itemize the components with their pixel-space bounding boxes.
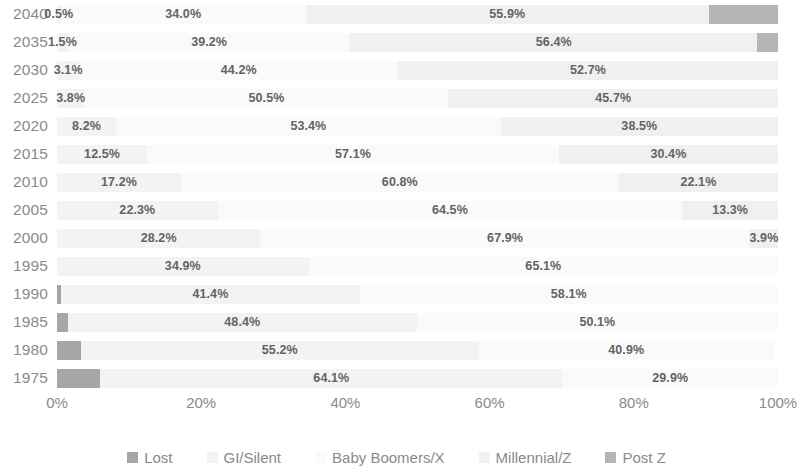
bar-segment: 28.2% [57, 229, 260, 248]
stacked-bar: 28.2%67.9%3.9% [57, 224, 778, 252]
chart-row: 200522.3%64.5%13.3% [0, 196, 793, 224]
x-axis-tick-label: 40% [330, 394, 360, 411]
stacked-bar: 41.4%58.1% [57, 280, 778, 308]
chart-row: 20208.2%53.4%38.5% [0, 112, 793, 140]
data-label: 3.1% [54, 63, 83, 77]
bar-segment: 38.5% [501, 117, 778, 136]
bar-segment [57, 369, 100, 388]
data-label: 13.3% [712, 203, 748, 217]
bar-segment: 8.2% [57, 117, 116, 136]
bar-segment: 3.8% [57, 89, 84, 108]
legend-item[interactable]: GI/Silent [207, 449, 282, 466]
bar-segment: 3.9% [750, 229, 778, 248]
legend-swatch-icon [479, 452, 490, 463]
y-axis-tick-label: 2030 [0, 56, 48, 84]
bar-segment: 53.4% [116, 117, 501, 136]
bar-segment: 67.9% [260, 229, 750, 248]
legend-label: Millennial/Z [496, 449, 572, 466]
chart-row: 20400.5%34.0%55.9% [0, 0, 793, 28]
bar-segment [57, 341, 81, 360]
bar-segment: 13.3% [682, 201, 778, 220]
x-axis-tick-label: 100% [759, 394, 797, 411]
stacked-bar: 1.5%39.2%56.4% [57, 28, 778, 56]
legend-swatch-icon [127, 452, 138, 463]
data-label: 41.4% [192, 287, 228, 301]
x-axis-tick-label: 60% [475, 394, 505, 411]
legend-item[interactable]: Post Z [605, 449, 665, 466]
data-label: 28.2% [141, 231, 177, 245]
y-axis-tick-label: 1975 [0, 364, 48, 392]
x-axis-tick-label: 0% [46, 394, 68, 411]
y-axis-tick-label: 1990 [0, 280, 48, 308]
y-axis-tick-label: 2025 [0, 84, 48, 112]
bar-segment: 39.2% [68, 33, 351, 52]
bar-segment: 45.7% [448, 89, 777, 108]
data-label: 56.4% [536, 35, 572, 49]
data-label: 1.5% [48, 35, 77, 49]
data-label: 39.2% [191, 35, 227, 49]
bar-segment: 58.1% [360, 285, 778, 304]
bar-segment: 30.4% [559, 145, 778, 164]
legend-item[interactable]: Baby Boomers/X [315, 449, 445, 466]
data-label: 34.9% [165, 259, 201, 273]
bar-segment: 64.5% [218, 201, 683, 220]
data-label: 60.8% [382, 175, 418, 189]
chart-row: 20351.5%39.2%56.4% [0, 28, 793, 56]
bar-segment: 50.1% [417, 313, 778, 332]
bar-segment: 48.4% [68, 313, 417, 332]
bar-segment: 1.5% [57, 33, 68, 52]
data-label: 50.1% [579, 315, 615, 329]
bar-segment: 40.9% [479, 341, 774, 360]
legend-item[interactable]: Millennial/Z [479, 449, 572, 466]
y-axis-tick-label: 2010 [0, 168, 48, 196]
data-label: 8.2% [72, 119, 101, 133]
data-label: 40.9% [608, 343, 644, 357]
data-label: 48.4% [224, 315, 260, 329]
data-label: 45.7% [595, 91, 631, 105]
stacked-bar: 12.5%57.1%30.4% [57, 140, 778, 168]
y-axis-tick-label: 1995 [0, 252, 48, 280]
chart-row: 201017.2%60.8%22.1% [0, 168, 793, 196]
bar-segment: 17.2% [57, 173, 181, 192]
data-label: 30.4% [650, 147, 686, 161]
data-label: 34.0% [165, 7, 201, 21]
bar-segment: 22.3% [57, 201, 218, 220]
legend-swatch-icon [207, 452, 218, 463]
y-axis-tick-label: 2040 [0, 0, 48, 28]
stacked-bar: 48.4%50.1% [57, 308, 778, 336]
chart-row: 20303.1%44.2%52.7% [0, 56, 793, 84]
chart-row: 200028.2%67.9%3.9% [0, 224, 793, 252]
data-label: 12.5% [84, 147, 120, 161]
data-label: 53.4% [290, 119, 326, 133]
bar-segment: 34.0% [61, 5, 306, 24]
chart-row: 197564.1%29.9% [0, 364, 793, 392]
data-label: 44.2% [221, 63, 257, 77]
stacked-bar: 55.2%40.9% [57, 336, 778, 364]
data-label: 22.3% [119, 203, 155, 217]
bar-segment: 3.1% [57, 61, 79, 80]
data-label: 58.1% [551, 287, 587, 301]
stacked-bar: 3.1%44.2%52.7% [57, 56, 778, 84]
bar-segment: 41.4% [61, 285, 359, 304]
data-label: 55.9% [489, 7, 525, 21]
y-axis-tick-label: 2015 [0, 140, 48, 168]
y-axis-tick-label: 2020 [0, 112, 48, 140]
bar-segment [757, 33, 778, 52]
legend-item[interactable]: Lost [127, 449, 172, 466]
chart-row: 201512.5%57.1%30.4% [0, 140, 793, 168]
y-axis-tick-label: 2005 [0, 196, 48, 224]
stacked-bar: 8.2%53.4%38.5% [57, 112, 778, 140]
chart-row: 20253.8%50.5%45.7% [0, 84, 793, 112]
data-label: 17.2% [101, 175, 137, 189]
chart-row: 198055.2%40.9% [0, 336, 793, 364]
y-axis-tick-label: 2035 [0, 28, 48, 56]
stacked-bar: 64.1%29.9% [57, 364, 778, 392]
bar-segment: 65.1% [309, 257, 778, 276]
legend-swatch-icon [315, 452, 326, 463]
data-label: 52.7% [570, 63, 606, 77]
x-axis: 0%20%40%60%80%100% [57, 394, 778, 420]
data-label: 55.2% [262, 343, 298, 357]
data-label: 50.5% [248, 91, 284, 105]
legend-label: Lost [144, 449, 172, 466]
